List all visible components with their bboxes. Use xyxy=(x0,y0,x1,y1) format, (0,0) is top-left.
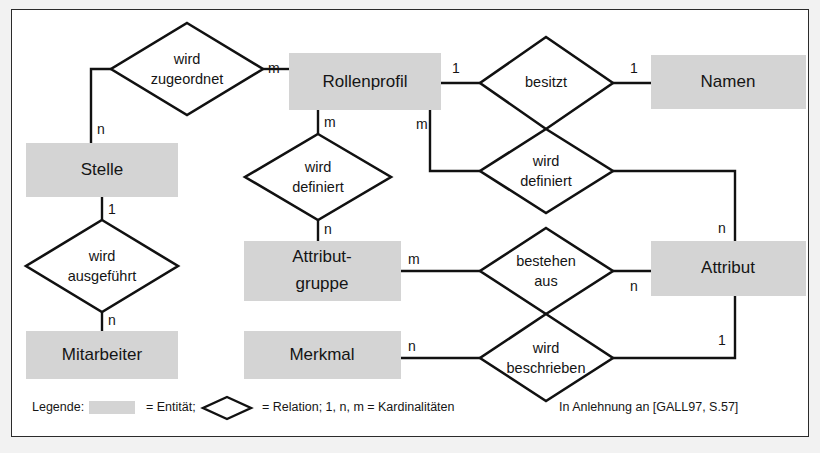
entity-namen-label: Namen xyxy=(701,72,756,91)
legend-prefix-label: Legende: xyxy=(32,400,84,414)
relation-wird-beschrieben[interactable]: wird beschrieben xyxy=(480,314,613,401)
entity-rollenprofil[interactable]: Rollenprofil xyxy=(289,53,441,110)
entity-mitarbeiter[interactable]: Mitarbeiter xyxy=(26,331,178,379)
relation-wird-definiert-left-line1: wird xyxy=(304,159,332,175)
source-credit: In Anlehnung an [GALL97, S.57] xyxy=(559,400,738,414)
relation-wird-zugeordnet-diamond xyxy=(111,23,263,115)
relation-wird-beschrieben-diamond xyxy=(480,314,613,401)
cardinality-wird-ausgefuehrt-mitarbeiter: n xyxy=(108,312,116,328)
entity-merkmal[interactable]: Merkmal xyxy=(244,331,401,379)
cardinality-rollenprofil-wird-definiert: m xyxy=(324,114,336,130)
entity-layer: Stelle Mitarbeiter Rollenprofil Attribut… xyxy=(26,53,806,379)
entity-attribut-label: Attribut xyxy=(701,258,755,277)
er-diagram-canvas: Stelle Mitarbeiter Rollenprofil Attribut… xyxy=(12,10,808,436)
figure-container: Stelle Mitarbeiter Rollenprofil Attribut… xyxy=(0,0,820,453)
entity-rollenprofil-label: Rollenprofil xyxy=(322,72,407,91)
relation-bestehen-aus[interactable]: bestehen aus xyxy=(480,228,613,314)
relation-wird-ausgefuehrt-line2: ausgeführt xyxy=(68,268,137,284)
legend: Legende: = Entität; = Relation; 1, n, m … xyxy=(32,397,455,419)
cardinality-wird-definiert-right-attribut: n xyxy=(718,220,726,236)
relation-wird-definiert-right-line1: wird xyxy=(532,153,560,169)
relation-wird-definiert-left-line2: definiert xyxy=(292,179,344,195)
entity-stelle[interactable]: Stelle xyxy=(26,143,178,197)
cardinality-attributgruppe-bestehen-aus: m xyxy=(408,251,420,267)
relation-wird-zugeordnet-line2: zugeordnet xyxy=(151,71,224,87)
legend-entity-swatch xyxy=(89,401,135,414)
legend-relation-label: = Relation; 1, n, m = Kardinalitäten xyxy=(262,400,455,414)
entity-stelle-label: Stelle xyxy=(81,160,124,179)
cardinality-rollenprofil-besitzt: 1 xyxy=(452,60,460,76)
entity-attribut[interactable]: Attribut xyxy=(651,241,806,296)
relation-wird-definiert-right-line2: definiert xyxy=(520,173,572,189)
cardinality-bestehen-aus-attribut: n xyxy=(630,278,638,294)
relation-wird-zugeordnet[interactable]: wird zugeordnet xyxy=(111,23,263,115)
entity-attributgruppe-label-line2: gruppe xyxy=(296,274,349,293)
relation-wird-beschrieben-line1: wird xyxy=(532,340,560,356)
cardinality-merkmal-wird-beschrieben: n xyxy=(408,338,416,354)
relation-wird-ausgefuehrt[interactable]: wird ausgeführt xyxy=(26,220,178,312)
relation-bestehen-aus-line2: aus xyxy=(534,273,557,289)
cardinality-stelle-wird-zugeordnet: n xyxy=(97,121,105,137)
relation-wird-definiert-right[interactable]: wird definiert xyxy=(480,129,613,213)
cardinality-besitzt-namen: 1 xyxy=(630,60,638,76)
entity-mitarbeiter-label: Mitarbeiter xyxy=(62,345,143,364)
cardinality-rollenprofil-wird-definiert-right: m xyxy=(416,116,428,132)
legend-entity-label: = Entität; xyxy=(146,400,196,414)
legend-relation-diamond-icon xyxy=(203,397,251,419)
relation-wird-beschrieben-line2: beschrieben xyxy=(507,360,586,376)
relation-wird-definiert-left[interactable]: wird definiert xyxy=(245,134,391,220)
relation-wird-ausgefuehrt-diamond xyxy=(26,220,178,312)
relation-bestehen-aus-diamond xyxy=(480,228,613,314)
relation-besitzt-label: besitzt xyxy=(525,74,567,90)
cardinality-wird-beschrieben-attribut: 1 xyxy=(718,332,726,348)
cardinality-stelle-wird-ausgefuehrt: 1 xyxy=(108,201,116,217)
cardinality-wird-zugeordnet-rollenprofil: m xyxy=(268,60,280,76)
cardinality-wird-definiert-attributgruppe: n xyxy=(324,221,332,237)
edge-wird-beschrieben-attribut xyxy=(613,296,735,358)
entity-merkmal-label: Merkmal xyxy=(289,345,354,364)
edge-rollenprofil-wird-definiert-right xyxy=(430,110,480,171)
diagram-frame: Stelle Mitarbeiter Rollenprofil Attribut… xyxy=(11,9,809,437)
relation-wird-definiert-right-diamond xyxy=(480,129,613,213)
entity-attributgruppe-label-line1: Attribut- xyxy=(292,247,352,266)
entity-namen[interactable]: Namen xyxy=(651,55,806,109)
relation-wird-definiert-left-diamond xyxy=(245,134,391,220)
relation-wird-zugeordnet-line1: wird xyxy=(173,51,201,67)
relation-besitzt[interactable]: besitzt xyxy=(480,37,613,129)
relation-wird-ausgefuehrt-line1: wird xyxy=(88,248,116,264)
entity-attributgruppe[interactable]: Attribut- gruppe xyxy=(244,241,401,301)
relation-bestehen-aus-line1: bestehen xyxy=(516,253,576,269)
edge-wird-definiert-right-attribut xyxy=(613,171,735,241)
